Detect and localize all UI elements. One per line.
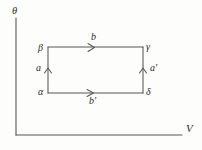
- vertex-label-beta: β: [38, 43, 43, 53]
- arrowheads-group: [45, 44, 147, 97]
- x-axis-label: V: [186, 123, 193, 134]
- figure-canvas: θ V β γ δ α b b' a a': [0, 0, 202, 150]
- edge-label-right-a-prime: a': [150, 63, 157, 73]
- vertex-label-alpha: α: [38, 87, 43, 97]
- edge-label-left-a: a: [36, 63, 41, 73]
- vertex-label-delta: δ: [146, 87, 151, 97]
- cycle-diagram-svg: [0, 0, 202, 150]
- vertex-label-gamma: γ: [146, 42, 150, 52]
- edge-label-top-b: b: [91, 32, 96, 42]
- axes-group: [16, 18, 182, 135]
- edge-label-bottom-b-prime: b': [89, 96, 96, 106]
- y-axis-label: θ: [12, 6, 17, 17]
- cycle-rectangle-group: [48, 47, 143, 93]
